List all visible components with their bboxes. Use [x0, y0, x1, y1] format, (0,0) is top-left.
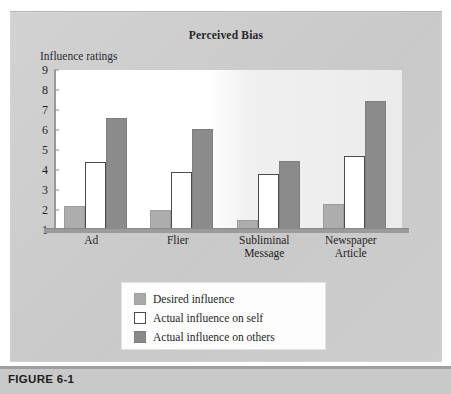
figure-container: Perceived Bias Influence ratings 1234567… [0, 0, 451, 394]
y-tick-mark [54, 130, 59, 131]
y-tick-mark [54, 150, 59, 151]
y-tick-mark [54, 170, 59, 171]
y-tick-mark [54, 210, 59, 211]
bar [279, 161, 300, 230]
y-axis-label: Influence ratings [40, 50, 118, 62]
legend-label: Actual influence on self [153, 312, 263, 324]
legend-item: Actual influence on self [134, 310, 263, 326]
y-tick-label: 4 [34, 164, 48, 176]
y-tick-label: 5 [34, 144, 48, 156]
y-tick-label: 7 [34, 104, 48, 116]
y-tick-label: 6 [34, 124, 48, 136]
x-tick-label-line: Flier [135, 234, 222, 247]
y-tick-mark [54, 90, 59, 91]
y-tick-mark [54, 70, 59, 71]
y-tick: 9 [10, 70, 442, 71]
x-tick-label-line: Message [221, 247, 308, 260]
y-tick-label: 2 [34, 204, 48, 216]
y-tick-label: 3 [34, 184, 48, 196]
y-tick-mark [54, 190, 59, 191]
x-axis-baseline [44, 229, 409, 233]
y-tick: 3 [10, 190, 442, 191]
y-tick-mark [54, 110, 59, 111]
x-tick-label: SubliminalMessage [221, 234, 308, 260]
x-tick-label-line: Article [308, 247, 395, 260]
figure-caption: FIGURE 6-1 [8, 373, 74, 385]
legend-label: Actual influence on others [153, 331, 275, 343]
legend-swatch-icon [134, 331, 146, 343]
y-tick: 7 [10, 110, 442, 111]
bar [323, 204, 344, 230]
x-tick-label-line: Newspaper [308, 234, 395, 247]
x-tick-label: NewspaperArticle [308, 234, 395, 260]
y-tick-label: 9 [34, 64, 48, 76]
legend-swatch-icon [134, 312, 146, 324]
chart-title: Perceived Bias [10, 29, 442, 41]
bar [150, 210, 171, 230]
x-tick-label-line: Subliminal [221, 234, 308, 247]
bar [85, 162, 106, 230]
y-tick: 4 [10, 170, 442, 171]
bar [344, 156, 365, 230]
bar [171, 172, 192, 230]
legend-item: Actual influence on others [134, 329, 275, 345]
bar [106, 118, 127, 230]
x-tick-label-line: Ad [48, 234, 135, 247]
bar [258, 174, 279, 230]
y-tick: 5 [10, 150, 442, 151]
y-tick-label: 8 [34, 84, 48, 96]
chart-legend: Desired influenceActual influence on sel… [121, 282, 326, 350]
y-tick: 2 [10, 210, 442, 211]
x-tick-label: Ad [48, 234, 135, 247]
chart-panel: Perceived Bias Influence ratings 1234567… [10, 12, 442, 362]
legend-swatch-icon [134, 293, 146, 305]
bar [192, 129, 213, 230]
y-tick: 8 [10, 90, 442, 91]
legend-item: Desired influence [134, 291, 234, 307]
x-tick-label: Flier [135, 234, 222, 247]
legend-label: Desired influence [153, 293, 234, 305]
y-tick: 6 [10, 130, 442, 131]
